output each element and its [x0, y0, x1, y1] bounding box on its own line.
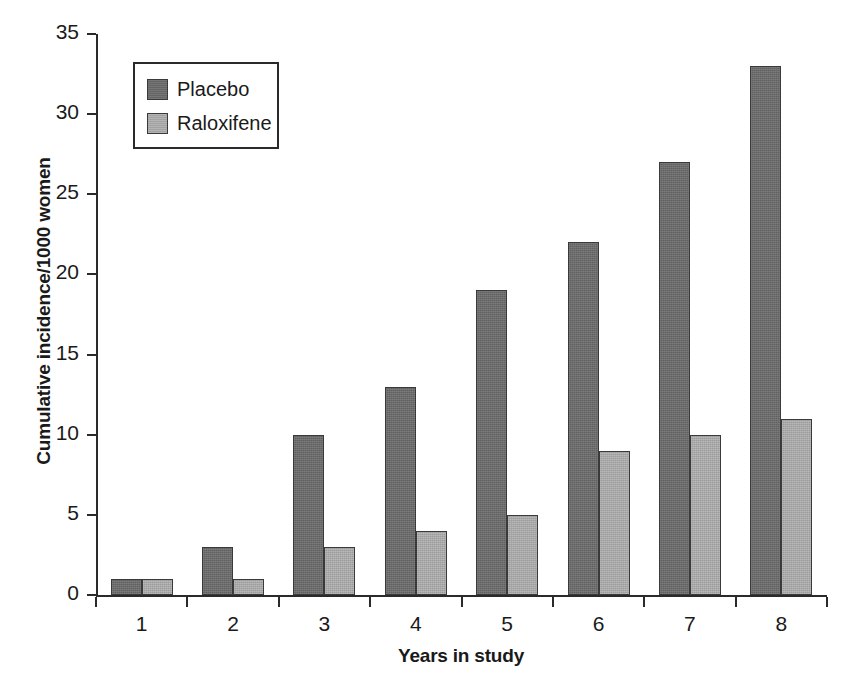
- bar-raloxifene-year-2: [233, 579, 264, 595]
- y-axis-tick: 20: [87, 273, 96, 275]
- bar-placebo-year-8: [750, 66, 781, 595]
- y-axis-tick-label: 0: [67, 582, 79, 604]
- legend-item-placebo: Placebo: [147, 72, 277, 106]
- y-axis-tick: 5: [87, 514, 96, 516]
- y-axis-tick: 10: [87, 434, 96, 436]
- x-axis-tick: [461, 597, 463, 607]
- y-axis-title: Cumulative incidence/1000 women: [33, 101, 55, 521]
- x-axis-tick: [735, 597, 737, 607]
- x-axis-tick: [95, 597, 97, 607]
- bar-placebo-year-3: [293, 435, 324, 595]
- legend-label-placebo: Placebo: [177, 79, 249, 99]
- chart-legend: Placebo Raloxifene: [133, 62, 279, 149]
- bar-raloxifene-year-6: [599, 451, 630, 595]
- bar-chart: Cumulative incidence/1000 women 05101520…: [0, 0, 843, 687]
- bar-placebo-year-2: [202, 547, 233, 595]
- x-axis-tick-label: 2: [203, 612, 263, 636]
- bar-raloxifene-year-1: [142, 579, 173, 595]
- x-axis-tick-label: 4: [386, 612, 446, 636]
- bar-placebo-year-4: [385, 387, 416, 595]
- x-axis-tick: [369, 597, 371, 607]
- bar-placebo-year-1: [111, 579, 142, 595]
- bar-raloxifene-year-7: [690, 435, 721, 595]
- x-axis-tick-label: 5: [477, 612, 537, 636]
- y-axis-tick-label: 5: [67, 502, 79, 524]
- bar-placebo-year-6: [568, 242, 599, 595]
- x-axis-tick-label: 6: [569, 612, 629, 636]
- y-axis-tick: 15: [87, 354, 96, 356]
- y-axis-tick-label: 10: [56, 422, 79, 444]
- bar-placebo-year-5: [476, 290, 507, 595]
- y-axis-tick-label: 30: [56, 101, 79, 123]
- x-axis-tick: [826, 597, 828, 607]
- raloxifene-swatch-icon: [147, 113, 168, 134]
- bar-raloxifene-year-8: [781, 419, 812, 595]
- y-axis-line: [96, 34, 98, 596]
- legend-label-raloxifene: Raloxifene: [177, 113, 272, 133]
- x-axis-title: Years in study: [96, 645, 826, 667]
- x-axis-tick: [643, 597, 645, 607]
- x-axis-tick-label: 8: [751, 612, 811, 636]
- y-axis-tick: 25: [87, 193, 96, 195]
- x-axis-tick: [186, 597, 188, 607]
- legend-item-raloxifene: Raloxifene: [147, 106, 277, 140]
- y-axis-tick: 30: [87, 113, 96, 115]
- bar-raloxifene-year-4: [416, 531, 447, 595]
- placebo-swatch-icon: [147, 79, 168, 100]
- x-axis-tick-label: 7: [660, 612, 720, 636]
- y-axis-tick-label: 15: [56, 342, 79, 364]
- x-axis-tick-label: 1: [112, 612, 172, 636]
- y-axis-tick-label: 35: [56, 21, 79, 43]
- y-axis-tick-label: 25: [56, 181, 79, 203]
- bar-raloxifene-year-3: [324, 547, 355, 595]
- y-axis-tick: 0: [87, 594, 96, 596]
- bar-placebo-year-7: [659, 162, 690, 595]
- bar-raloxifene-year-5: [507, 515, 538, 595]
- x-axis-tick: [552, 597, 554, 607]
- x-axis-tick: [278, 597, 280, 607]
- y-axis-tick: 35: [87, 33, 96, 35]
- y-axis-tick-label: 20: [56, 261, 79, 283]
- x-axis-tick-label: 3: [294, 612, 354, 636]
